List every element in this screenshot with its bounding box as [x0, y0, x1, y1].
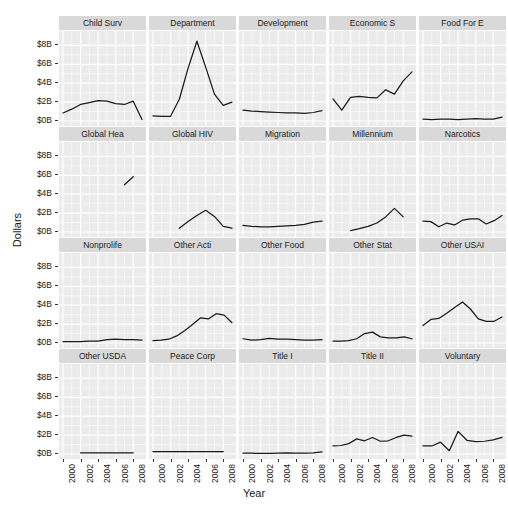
y-tick-label: $2B: [12, 207, 52, 217]
panel-strip: Development: [239, 16, 326, 30]
panel-svg: [239, 31, 326, 126]
panel-strip-label: Peace Corp: [149, 349, 236, 363]
facet-panel: Child Surv: [59, 16, 146, 125]
data-line: [243, 221, 322, 227]
y-tick-label: $4B: [12, 77, 52, 87]
data-line: [333, 72, 412, 110]
facet-panel: Other USAI: [419, 238, 506, 347]
panel-strip: Peace Corp: [149, 349, 236, 363]
y-tick-label: $6B: [12, 391, 52, 401]
panel-svg: [239, 253, 326, 348]
panel-plot-area: [419, 364, 506, 459]
panel-strip: Department: [149, 16, 236, 30]
y-tick-label: $4B: [12, 188, 52, 198]
panel-svg: [329, 142, 416, 237]
x-tick-mark: [333, 459, 334, 462]
x-tick-label: 2008: [497, 464, 507, 494]
y-tick-mark: [55, 434, 58, 435]
panel-plot-area: [419, 142, 506, 237]
x-tick-label: 2004: [102, 464, 112, 494]
y-tick-mark: [55, 82, 58, 83]
panel-svg: [419, 31, 506, 126]
y-tick-label: $8B: [12, 261, 52, 271]
x-tick-label: 2008: [227, 464, 237, 494]
x-tick-label: 2008: [407, 464, 417, 494]
y-tick-mark: [55, 377, 58, 378]
x-tick-mark: [278, 459, 279, 462]
x-tick-mark: [458, 459, 459, 462]
panel-strip: Migration: [239, 127, 326, 141]
panel-plot-area: [419, 253, 506, 348]
panel-strip: Economic S: [329, 16, 416, 30]
facet-panel: Economic S: [329, 16, 416, 125]
x-tick-mark: [296, 459, 297, 462]
x-tick-mark: [243, 459, 244, 462]
x-tick-mark: [116, 459, 117, 462]
x-tick-mark: [188, 459, 189, 462]
x-tick-mark: [206, 459, 207, 462]
panel-strip-label: Narcotics: [419, 127, 506, 141]
data-line: [63, 101, 142, 120]
x-tick-label: 2002: [265, 464, 275, 494]
y-tick-mark: [55, 266, 58, 267]
x-tick-label: 2002: [175, 464, 185, 494]
x-tick-label: 2006: [210, 464, 220, 494]
panel-strip-label: Economic S: [329, 16, 416, 30]
facet-panel: Other USDA: [59, 349, 146, 458]
y-tick-mark: [55, 63, 58, 64]
facet-panel: Title I: [239, 349, 326, 458]
x-tick-label: 2000: [157, 464, 167, 494]
x-tick-mark: [81, 459, 82, 462]
y-tick-mark: [55, 415, 58, 416]
panel-strip-label: Department: [149, 16, 236, 30]
panel-strip-label: Other USDA: [59, 349, 146, 363]
panel-strip: Millennium: [329, 127, 416, 141]
x-tick-label: 2004: [372, 464, 382, 494]
panel-plot-area: [239, 364, 326, 459]
y-tick-mark: [55, 285, 58, 286]
x-tick-label: 2008: [137, 464, 147, 494]
y-tick-mark: [55, 304, 58, 305]
y-tick-label: $4B: [12, 299, 52, 309]
panel-strip: Other Stat: [329, 238, 416, 252]
x-tick-mark: [261, 459, 262, 462]
panel-plot-area: [239, 142, 326, 237]
y-tick-label: $8B: [12, 39, 52, 49]
facet-panel: Global Hea: [59, 127, 146, 236]
data-line: [423, 215, 502, 226]
x-tick-label: 2000: [247, 464, 257, 494]
panel-strip: Voluntary: [419, 349, 506, 363]
panel-strip: Narcotics: [419, 127, 506, 141]
y-tick-label: $0B: [12, 337, 52, 347]
x-tick-label: 2000: [427, 464, 437, 494]
panel-svg: [59, 253, 146, 348]
panel-strip: Global HIV: [149, 127, 236, 141]
facet-panel: Narcotics: [419, 127, 506, 236]
x-tick-label: 2004: [462, 464, 472, 494]
panel-strip: Other Food: [239, 238, 326, 252]
panel-svg: [239, 364, 326, 459]
y-tick-label: $8B: [12, 372, 52, 382]
panel-svg: [329, 31, 416, 126]
panel-plot-area: [329, 253, 416, 348]
facet-panel: Voluntary: [419, 349, 506, 458]
x-tick-mark: [153, 459, 154, 462]
data-line: [124, 177, 133, 185]
panel-plot-area: [329, 31, 416, 126]
panel-strip-label: Title II: [329, 349, 416, 363]
x-tick-mark: [98, 459, 99, 462]
panel-strip: Other USAI: [419, 238, 506, 252]
y-tick-mark: [55, 101, 58, 102]
x-tick-mark: [386, 459, 387, 462]
panel-svg: [329, 253, 416, 348]
facet-panel: Peace Corp: [149, 349, 236, 458]
y-tick-mark: [55, 453, 58, 454]
panel-strip-label: Development: [239, 16, 326, 30]
panel-strip-label: Other Food: [239, 238, 326, 252]
facet-panel: Food For E: [419, 16, 506, 125]
y-tick-label: $2B: [12, 318, 52, 328]
x-tick-mark: [476, 459, 477, 462]
data-line: [243, 338, 322, 340]
panel-strip-label: Voluntary: [419, 349, 506, 363]
x-tick-label: 2002: [85, 464, 95, 494]
